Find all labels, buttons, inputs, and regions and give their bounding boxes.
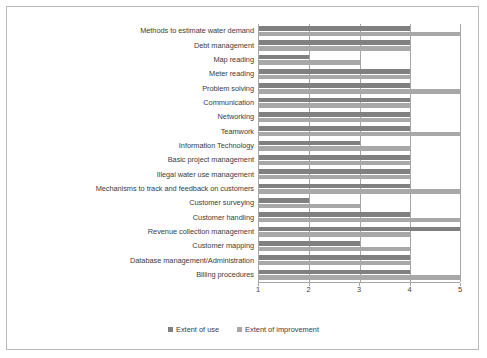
category-label: Information Technology — [7, 139, 258, 153]
bar-extent-of-use — [259, 141, 360, 146]
category-axis-labels: Methods to estimate water demandDebt man… — [7, 24, 258, 282]
category-label: Methods to estimate water demand — [7, 24, 258, 38]
legend-swatch-icon — [237, 327, 242, 332]
category-label: Revenue collection management — [7, 225, 258, 239]
bar-extent-of-use — [259, 126, 410, 131]
x-axis-tick-label: 5 — [458, 285, 462, 294]
bar-row — [259, 139, 460, 153]
category-label: Teamwork — [7, 124, 258, 138]
bar-row — [259, 24, 460, 38]
legend-item[interactable]: Extent of use — [168, 325, 219, 334]
bar-row — [259, 67, 460, 81]
category-label: Map reading — [7, 53, 258, 67]
figure-frame: Methods to estimate water demandDebt man… — [6, 6, 479, 350]
bar-extent-of-use — [259, 26, 410, 31]
category-label: Customer mapping — [7, 239, 258, 253]
bar-row — [259, 167, 460, 181]
bar-extent-of-use — [259, 69, 410, 74]
bar-row — [259, 268, 460, 282]
bar-extent-of-use — [259, 112, 410, 117]
bar-extent-of-use — [259, 55, 309, 60]
bar-extent-of-improvement — [259, 146, 410, 151]
bar-extent-of-use — [259, 40, 410, 45]
chart-legend: Extent of useExtent of improvement — [7, 325, 480, 334]
category-label: Debt management — [7, 38, 258, 52]
legend-label: Extent of improvement — [245, 325, 319, 334]
bar-row — [259, 81, 460, 95]
plot-area — [258, 24, 460, 282]
bar-extent-of-improvement — [259, 161, 410, 166]
bar-extent-of-use — [259, 155, 410, 160]
bar-extent-of-use — [259, 169, 410, 174]
bar-extent-of-use — [259, 270, 410, 275]
bar-extent-of-improvement — [259, 275, 460, 280]
legend-item[interactable]: Extent of improvement — [237, 325, 319, 334]
bar-extent-of-improvement — [259, 204, 360, 209]
category-label: Billing procedures — [7, 268, 258, 282]
category-label: Basic project management — [7, 153, 258, 167]
bar-row — [259, 38, 460, 52]
x-axis-tick-labels: 12345 — [258, 285, 460, 299]
bar-row — [259, 253, 460, 267]
legend-swatch-icon — [168, 327, 173, 332]
category-label: Illegal water use management — [7, 167, 258, 181]
bar-row — [259, 239, 460, 253]
bar-extent-of-use — [259, 98, 410, 103]
x-axis-tick-label: 1 — [256, 285, 260, 294]
bar-rows — [259, 24, 460, 282]
bar-extent-of-improvement — [259, 175, 410, 180]
category-label: Meter reading — [7, 67, 258, 81]
bar-extent-of-improvement — [259, 118, 410, 123]
category-label: Customer handling — [7, 210, 258, 224]
bar-extent-of-improvement — [259, 46, 410, 51]
bar-extent-of-use — [259, 184, 410, 189]
x-axis-tick-label: 2 — [306, 285, 310, 294]
bar-row — [259, 182, 460, 196]
x-axis-tick-label: 3 — [357, 285, 361, 294]
category-label: Problem solving — [7, 81, 258, 95]
bar-row — [259, 53, 460, 67]
plot-wrapper: Methods to estimate water demandDebt man… — [7, 13, 480, 293]
bar-extent-of-use — [259, 255, 410, 260]
bar-row — [259, 196, 460, 210]
chart-screenshot: Methods to estimate water demandDebt man… — [0, 0, 487, 358]
x-axis-tick-label: 4 — [407, 285, 411, 294]
bar-row — [259, 225, 460, 239]
bar-extent-of-improvement — [259, 261, 410, 266]
bar-row — [259, 96, 460, 110]
bar-extent-of-use — [259, 227, 460, 232]
category-label: Networking — [7, 110, 258, 124]
bar-row — [259, 153, 460, 167]
bar-extent-of-improvement — [259, 247, 410, 252]
bar-extent-of-improvement — [259, 60, 360, 65]
category-label: Database management/Administration — [7, 253, 258, 267]
legend-label: Extent of use — [176, 325, 219, 334]
bar-extent-of-improvement — [259, 75, 410, 80]
bar-extent-of-improvement — [259, 132, 460, 137]
category-label: Customer surveying — [7, 196, 258, 210]
bar-extent-of-improvement — [259, 89, 460, 94]
bar-extent-of-improvement — [259, 32, 460, 37]
bar-row — [259, 210, 460, 224]
category-label: Communication — [7, 96, 258, 110]
bar-row — [259, 124, 460, 138]
bar-extent-of-use — [259, 241, 360, 246]
bar-extent-of-improvement — [259, 232, 410, 237]
bar-extent-of-use — [259, 198, 309, 203]
bar-extent-of-improvement — [259, 189, 460, 194]
category-label: Mechanisms to track and feedback on cust… — [7, 182, 258, 196]
bar-extent-of-improvement — [259, 103, 410, 108]
gridline — [460, 24, 461, 282]
bar-extent-of-use — [259, 212, 410, 217]
bar-extent-of-use — [259, 83, 410, 88]
bar-extent-of-improvement — [259, 218, 460, 223]
bar-row — [259, 110, 460, 124]
